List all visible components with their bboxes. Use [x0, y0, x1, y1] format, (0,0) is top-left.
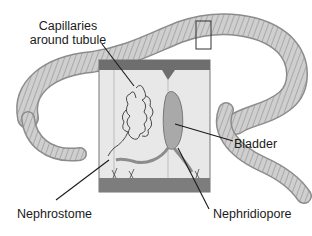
label-capillaries-around-tubule: Capillaries around tubule	[19, 19, 117, 47]
label-nephrostome: Nephrostome	[17, 207, 92, 221]
label-capillaries-line2: around tubule	[19, 33, 117, 47]
label-capillaries-line1: Capillaries	[19, 19, 117, 33]
cutaway-section	[99, 60, 210, 192]
label-nephridiopore: Nephridiopore	[213, 207, 292, 221]
label-bladder: Bladder	[234, 137, 277, 151]
